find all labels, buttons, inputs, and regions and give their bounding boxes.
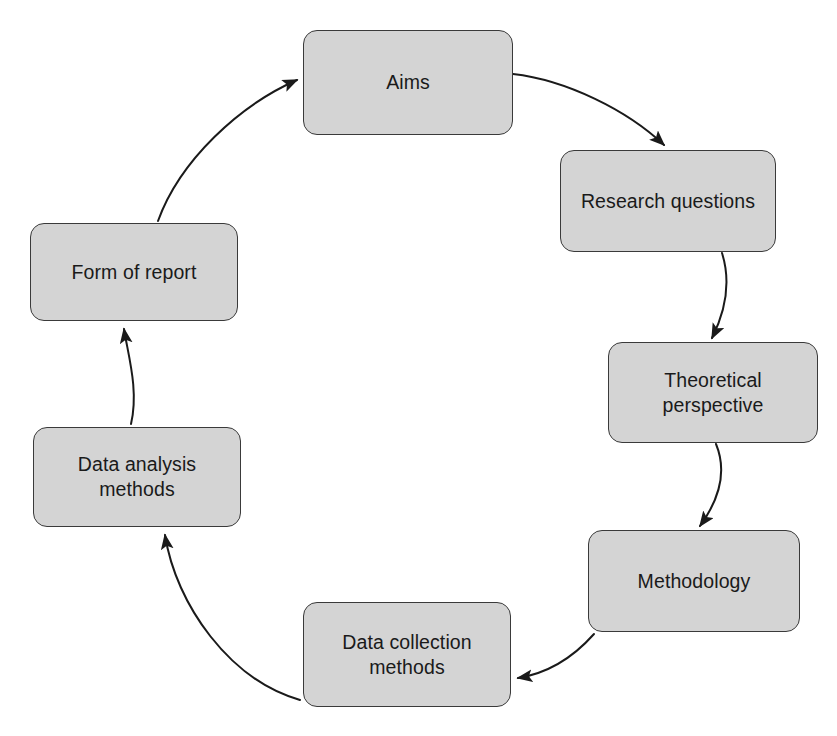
edge-theoretical-perspective-to-methodology (700, 444, 721, 526)
node-data-collection-methods-label: Data collection methods (334, 630, 479, 680)
node-aims-label: Aims (378, 70, 438, 95)
research-cycle-diagram: Aims Research questions Theoretical pers… (0, 0, 837, 736)
node-research-questions[interactable]: Research questions (560, 150, 776, 252)
node-aims[interactable]: Aims (303, 30, 513, 135)
edge-data-collection-methods-to-data-analysis-methods (165, 535, 300, 700)
node-research-questions-label: Research questions (573, 189, 763, 214)
node-theoretical-perspective-label: Theoretical perspective (655, 368, 772, 418)
edge-methodology-to-data-collection-methods (518, 634, 594, 678)
edge-data-analysis-methods-to-form-of-report (124, 329, 134, 424)
node-theoretical-perspective[interactable]: Theoretical perspective (608, 342, 818, 443)
edge-aims-to-research-questions (513, 74, 664, 145)
node-methodology-label: Methodology (630, 569, 759, 594)
node-data-analysis-methods-label: Data analysis methods (70, 452, 204, 502)
node-data-analysis-methods[interactable]: Data analysis methods (33, 427, 241, 527)
node-form-of-report-label: Form of report (64, 260, 205, 285)
edge-form-of-report-to-aims (158, 80, 297, 221)
node-data-collection-methods[interactable]: Data collection methods (303, 602, 511, 707)
node-form-of-report[interactable]: Form of report (30, 223, 238, 321)
edge-research-questions-to-theoretical-perspective (712, 253, 727, 338)
node-methodology[interactable]: Methodology (588, 530, 800, 632)
